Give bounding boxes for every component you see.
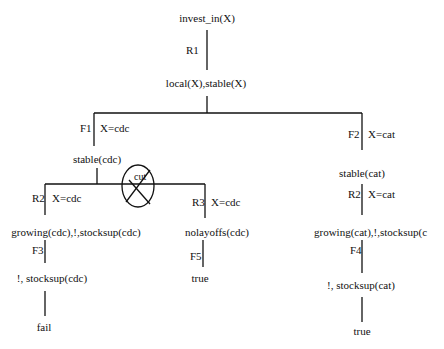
edge-label-f4: F4 [350, 244, 362, 256]
node-true-right: true [353, 325, 370, 337]
edge-label-r2-right: R2 [348, 188, 361, 200]
edge-label-r3: R3 [192, 196, 205, 208]
node-true-mid: true [191, 272, 208, 284]
edge-label-f1: F1 [80, 122, 92, 134]
edge-binding-r2-left: X=cdc [52, 192, 81, 204]
edge-label-r2-left: R2 [32, 192, 45, 204]
node-fail: fail [37, 321, 52, 333]
edge-binding-r3: X=cdc [211, 196, 240, 208]
edge-label-r1: R1 [186, 44, 199, 56]
edge-label-f5: F5 [190, 250, 202, 262]
node-growing-cdc: growing(cdc),!,stocksup(cdc) [11, 226, 141, 238]
node-nolayoffs-cdc: nolayoffs(cdc) [185, 226, 249, 238]
node-stable-cat: stable(cat) [339, 167, 385, 179]
node-growing-cat: growing(cat),!,stocksup(c [314, 226, 427, 238]
node-cut-stocksup-cat: !, stocksup(cat) [327, 279, 395, 291]
node-cut-stocksup-cdc: !, stocksup(cdc) [17, 272, 87, 284]
cut-label: cut [134, 171, 146, 183]
node-stable-cdc: stable(cdc) [73, 153, 121, 165]
edge-binding-f2: X=cat [368, 128, 395, 140]
edge-binding-f1: X=cdc [100, 122, 129, 134]
edge-label-f2: F2 [348, 128, 360, 140]
edge-binding-r2-right: X=cat [368, 188, 395, 200]
root-goal: invest_in(X) [179, 12, 235, 24]
node-local-stable: local(X),stable(X) [166, 77, 246, 89]
edge-label-f3: F3 [32, 244, 44, 256]
